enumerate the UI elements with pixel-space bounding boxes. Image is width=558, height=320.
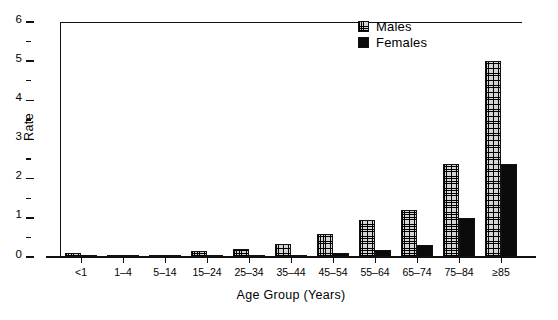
x-tick-mark [123,257,124,263]
y-tick-mark [26,198,31,199]
bar-group [443,22,475,257]
x-tick-label: 45–54 [318,266,347,278]
x-tick-label: 5–14 [153,266,176,278]
x-axis-ticks [60,257,522,265]
legend-entry-females: Females [358,35,427,50]
chart-legend: Males Females [358,19,427,51]
bar-females [417,245,433,257]
bar-males [485,61,501,257]
x-tick-mark [165,257,166,263]
bar-group [65,22,97,257]
x-tick-label: 65–74 [402,266,431,278]
x-axis-tick-labels: <11–45–1415–2425–3435–4445–5455–6465–747… [60,266,522,284]
y-tick-label: 6 [16,14,22,26]
x-tick-mark [249,257,250,263]
x-tick-mark [459,257,460,263]
x-tick-mark [501,257,502,263]
x-tick-mark [375,257,376,263]
legend-label-males: Males [376,20,412,33]
females-swatch-icon [358,37,369,48]
y-tick-mark [26,217,34,218]
y-tick-mark [26,41,31,42]
x-tick-mark [81,257,82,263]
legend-label-females: Females [376,36,427,49]
bar-group [317,22,349,257]
bar-females [459,218,475,257]
y-tick-label: 0 [16,249,22,261]
y-axis-title: Rate [22,92,36,162]
x-tick-mark [417,257,418,263]
bar-group [359,22,391,257]
y-tick-label: 5 [16,53,22,65]
bar-chart-figure: 0123456 Rate <11–45–1415–2425–3435–4445–… [0,0,558,320]
x-tick-label: ≥85 [492,266,509,278]
bar-group [275,22,307,257]
bar-group [233,22,265,257]
bar-males [275,244,291,257]
y-tick-label: 1 [16,209,22,221]
y-tick-mark [26,178,34,179]
x-tick-mark [333,257,334,263]
y-tick-label: 2 [16,170,22,182]
x-tick-mark [291,257,292,263]
bar-group [149,22,181,257]
x-tick-label: 15–24 [192,266,221,278]
bar-males [401,210,417,257]
y-tick-mark [26,256,34,257]
bar-group [191,22,223,257]
bar-group [401,22,433,257]
y-tick-mark [26,237,31,238]
x-axis-title: Age Group (Years) [60,288,522,302]
legend-entry-males: Males [358,19,427,34]
bar-group [485,22,517,257]
x-tick-label: 55–64 [360,266,389,278]
bar-males [359,220,375,257]
x-tick-label: 35–44 [276,266,305,278]
bar-series-container [60,22,522,257]
males-swatch-icon [358,21,369,32]
bar-males [233,249,249,257]
x-tick-label: 1–4 [114,266,132,278]
y-tick-mark [26,60,34,61]
bar-group [107,22,139,257]
bar-females [501,164,517,257]
x-tick-label: 75–84 [444,266,473,278]
bar-males [443,164,459,257]
y-tick-mark [26,80,31,81]
x-tick-label: <1 [75,266,87,278]
bar-males [317,234,333,258]
x-tick-label: 25–34 [234,266,263,278]
y-tick-mark [26,21,34,22]
x-tick-mark [207,257,208,263]
bar-females [375,250,391,257]
